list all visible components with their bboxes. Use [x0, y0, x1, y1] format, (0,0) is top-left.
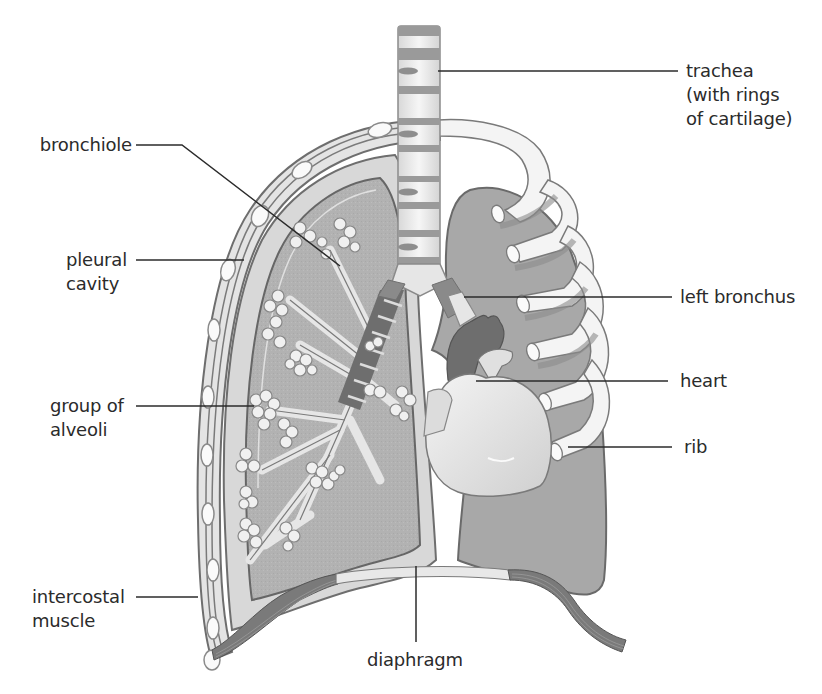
label-bronchiole: bronchiole: [40, 133, 132, 157]
label-pleural-cavity: pleural cavity: [66, 248, 127, 296]
label-group-of-alveoli: group of alveoli: [50, 394, 124, 442]
label-trachea: trachea (with rings of cartilage): [686, 59, 792, 131]
label-diaphragm: diaphragm: [367, 648, 463, 672]
lungs-diagram: bronchiole pleural cavity group of alveo…: [0, 0, 822, 694]
label-rib: rib: [684, 435, 707, 459]
label-heart: heart: [680, 369, 727, 393]
label-intercostal-muscle: intercostal muscle: [32, 585, 125, 633]
label-left-bronchus: left bronchus: [680, 285, 795, 309]
